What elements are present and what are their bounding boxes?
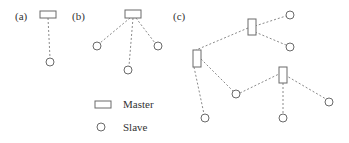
edge <box>285 75 326 99</box>
master-node-icon <box>125 10 141 18</box>
panel-b: (b) <box>72 10 162 74</box>
edge <box>100 18 130 43</box>
slave-node-icon <box>286 11 294 19</box>
legend-slave-label: Slave <box>123 121 148 133</box>
slave-node-icon <box>279 114 287 122</box>
master-node-icon <box>40 11 56 18</box>
legend-master-label: Master <box>123 98 154 110</box>
edge <box>255 32 286 45</box>
master-node-icon <box>248 19 256 35</box>
panel-b-label: (b) <box>72 10 85 23</box>
slave-node-icon <box>325 98 333 106</box>
slave-node-icon <box>201 114 209 122</box>
slave-node-icon <box>286 43 294 51</box>
panel-c: (c) <box>173 10 333 122</box>
edge <box>136 18 155 43</box>
legend-slave-icon <box>97 123 105 131</box>
slave-node-icon <box>46 58 54 66</box>
edge <box>240 74 279 93</box>
edge <box>129 18 133 66</box>
edge <box>255 16 286 26</box>
legend: Master Slave <box>95 98 154 133</box>
edge <box>196 28 248 50</box>
panel-c-label: (c) <box>173 10 186 23</box>
master-node-icon <box>279 67 287 83</box>
slave-node-icon <box>154 42 162 50</box>
edge <box>194 67 204 114</box>
slave-node-icon <box>93 42 101 50</box>
master-slave-diagram: (a) (b) (c) <box>0 0 349 143</box>
slave-node-icon <box>124 66 132 74</box>
master-node-icon <box>193 50 201 67</box>
edge <box>48 18 50 58</box>
edge <box>201 59 233 91</box>
slave-node-icon <box>232 90 240 98</box>
legend-master-icon <box>95 101 111 108</box>
panel-a: (a) <box>15 10 56 66</box>
panel-a-label: (a) <box>15 10 28 23</box>
